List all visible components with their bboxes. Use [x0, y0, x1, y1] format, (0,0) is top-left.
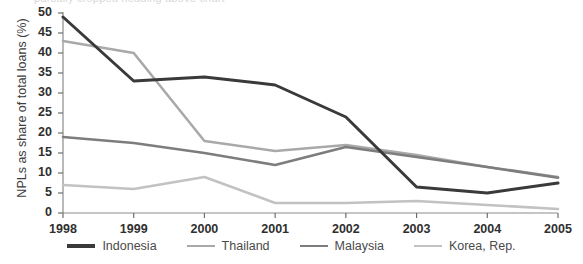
y-tick-label: 50: [26, 5, 52, 19]
legend-label: Korea, Rep.: [449, 239, 516, 253]
legend-swatch-line-icon: [300, 245, 328, 248]
y-tick-label: 25: [26, 105, 52, 119]
x-tick-label: 2001: [245, 222, 305, 236]
legend-swatch-line-icon: [414, 245, 442, 248]
y-tick-label: 30: [26, 85, 52, 99]
legend-label: Indonesia: [102, 239, 156, 253]
x-tick-label: 2002: [316, 222, 376, 236]
series-line-malaysia: [63, 137, 558, 178]
legend-item[interactable]: Korea, Rep.: [414, 239, 516, 253]
y-tick-label: 0: [26, 205, 52, 219]
legend-item[interactable]: Thailand: [187, 239, 270, 253]
x-tick-label: 1998: [33, 222, 93, 236]
legend-swatch-line-icon: [187, 245, 215, 248]
y-tick-label: 15: [26, 145, 52, 159]
legend-item[interactable]: Malaysia: [300, 239, 384, 253]
x-tick-label: 2000: [174, 222, 234, 236]
x-tick-label: 1999: [104, 222, 164, 236]
x-tick-label: 2005: [528, 222, 583, 236]
x-tick-label: 2003: [387, 222, 447, 236]
y-tick-label: 5: [26, 185, 52, 199]
y-tick-label: 20: [26, 125, 52, 139]
legend-item[interactable]: Indonesia: [67, 239, 156, 253]
chart-root: partially cropped heading above chart NP…: [0, 0, 583, 264]
y-tick-label: 45: [26, 25, 52, 39]
y-tick-label: 40: [26, 45, 52, 59]
y-tick-label: 10: [26, 165, 52, 179]
y-tick-label: 35: [26, 65, 52, 79]
legend-label: Thailand: [222, 239, 270, 253]
chart-legend: IndonesiaThailandMalaysiaKorea, Rep.: [0, 239, 583, 253]
x-tick-label: 2004: [457, 222, 517, 236]
legend-label: Malaysia: [335, 239, 384, 253]
legend-swatch-line-icon: [67, 244, 95, 247]
